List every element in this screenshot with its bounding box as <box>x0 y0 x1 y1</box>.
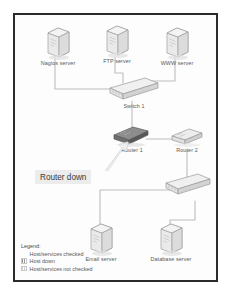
node-label-ftp: FTP server <box>103 58 131 64</box>
server-icon <box>155 223 185 257</box>
switch-icon <box>107 77 161 103</box>
node-label-www: WWW server <box>161 60 194 66</box>
legend-item-not-checked: Host/services not checked <box>21 265 92 272</box>
node-label-router-2: Router 2 <box>176 147 197 153</box>
legend-label-down: Host down <box>30 258 55 264</box>
switch-icon <box>163 173 213 199</box>
diagram-frame: Nagios server FTP server <box>13 13 218 282</box>
node-label-nagios: Nagios server <box>41 60 76 66</box>
server-icon <box>161 27 191 61</box>
legend-title: Legend: <box>21 243 92 249</box>
legend-swatch-not-checked <box>21 266 27 272</box>
legend-swatch-down <box>21 258 27 264</box>
callout-arrow-icon <box>103 141 131 173</box>
node-switch-1[interactable]: Switch 1 <box>107 77 161 107</box>
node-router-2[interactable]: Router 2 <box>169 127 205 153</box>
callout-router-down: Router down <box>35 170 91 184</box>
router-icon <box>169 127 205 149</box>
node-ftp-server[interactable]: FTP server <box>101 25 131 63</box>
node-switch-2[interactable] <box>163 173 213 203</box>
node-label-switch-1: Switch 1 <box>123 103 144 109</box>
server-icon <box>101 25 131 59</box>
diagram-canvas: Nagios server FTP server <box>15 15 216 280</box>
node-label-database: Database server <box>150 256 191 262</box>
legend-label-checked: Host/services checked <box>30 251 84 257</box>
legend-item-checked: Host/services checked <box>21 250 92 257</box>
node-nagios-server[interactable]: Nagios server <box>42 27 72 65</box>
node-database-server[interactable]: Database server <box>155 223 185 261</box>
legend: Legend: Host/services checked Host down … <box>21 243 92 273</box>
legend-label-not-checked: Host/services not checked <box>30 266 93 272</box>
legend-item-down: Host down <box>21 258 92 265</box>
server-icon <box>42 27 72 61</box>
node-www-server[interactable]: WWW server <box>161 27 191 65</box>
